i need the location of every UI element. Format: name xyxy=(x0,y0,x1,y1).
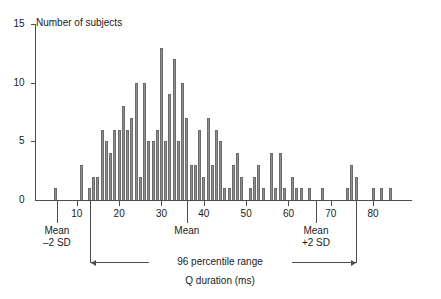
histogram-bar xyxy=(308,188,311,200)
histogram-bar xyxy=(54,188,57,200)
histogram-bar xyxy=(130,118,133,200)
x-tick-20 xyxy=(119,201,120,206)
histogram-bar xyxy=(262,188,265,200)
histogram-bar xyxy=(215,130,218,200)
y-tick-5 xyxy=(31,141,35,142)
histogram-bar xyxy=(321,188,324,200)
percentile-range-label: 96 percentile range xyxy=(150,256,290,268)
y-tick-label-15: 15 xyxy=(7,19,25,29)
y-tick-label-5: 5 xyxy=(7,136,25,146)
histogram-bar xyxy=(118,130,121,200)
mean-plus-2sd-tick xyxy=(316,201,317,223)
x-tick-10 xyxy=(77,201,78,206)
histogram-bar xyxy=(168,94,171,200)
mean-minus-2sd-label-line2: –2 SD xyxy=(17,237,97,249)
x-axis-title: Q duration (ms) xyxy=(140,275,300,287)
histogram-bar xyxy=(109,153,112,200)
histogram-bar xyxy=(92,177,95,200)
histogram-bar xyxy=(80,165,83,200)
x-tick-80 xyxy=(373,201,374,206)
x-tick-40 xyxy=(204,201,205,206)
percentile-range-left-connector xyxy=(90,201,91,263)
mean-plus-2sd-label-line2: +2 SD xyxy=(276,237,356,249)
x-tick-label-60: 60 xyxy=(273,208,303,220)
x-tick-label-20: 20 xyxy=(104,208,134,220)
histogram-bar xyxy=(207,118,210,200)
histogram-bar xyxy=(295,188,298,200)
histogram-bar xyxy=(283,188,286,200)
histogram-bar xyxy=(101,130,104,200)
x-tick-50 xyxy=(246,201,247,206)
y-tick-label-0: 0 xyxy=(7,195,25,205)
histogram-bar xyxy=(164,141,167,200)
x-tick-60 xyxy=(288,201,289,206)
histogram-bar xyxy=(249,188,252,200)
histogram-bar xyxy=(190,165,193,200)
histogram-bar xyxy=(185,118,188,200)
x-tick-70 xyxy=(331,201,332,206)
histogram-bar xyxy=(152,141,155,200)
mean-plus-2sd-label-line1: Mean xyxy=(276,225,356,237)
histogram-bar xyxy=(96,177,99,200)
histogram-bar xyxy=(113,130,116,200)
histogram-bar xyxy=(350,165,353,200)
histogram-bar xyxy=(300,188,303,200)
mean-minus-2sd-label: Mean –2 SD xyxy=(17,225,97,248)
histogram-bar xyxy=(257,165,260,200)
histogram-bar xyxy=(372,188,375,200)
y-axis-line xyxy=(35,24,36,200)
histogram-bar xyxy=(198,130,201,200)
histogram-bar xyxy=(177,141,180,200)
histogram-bar xyxy=(156,130,159,200)
histogram-bar xyxy=(274,188,277,200)
x-tick-label-50: 50 xyxy=(231,208,261,220)
histogram-bar xyxy=(223,188,226,200)
histogram-bar xyxy=(88,188,91,200)
histogram-bar xyxy=(240,177,243,200)
histogram-bar xyxy=(202,177,205,200)
x-tick-label-80: 80 xyxy=(358,208,388,220)
histogram-bar xyxy=(147,141,150,200)
y-tick-10 xyxy=(31,83,35,84)
histogram-bar xyxy=(139,177,142,200)
histogram-bar xyxy=(346,188,349,200)
histogram-bar xyxy=(270,153,273,200)
mean-plus-2sd-label: Mean +2 SD xyxy=(276,225,356,248)
mean-label-line1: Mean xyxy=(147,225,227,237)
histogram-bar xyxy=(389,188,392,200)
mean-label: Mean xyxy=(147,225,227,237)
histogram-figure: Number of subjects 151050 10203040506070… xyxy=(0,0,441,299)
percentile-range-arrowhead-left xyxy=(91,260,96,266)
percentile-range-arrow-right xyxy=(292,262,356,263)
x-tick-label-10: 10 xyxy=(62,208,92,220)
x-tick-label-40: 40 xyxy=(189,208,219,220)
histogram-bar xyxy=(279,153,282,200)
y-axis-title: Number of subjects xyxy=(36,17,122,28)
histogram-bar xyxy=(194,165,197,200)
histogram-bar xyxy=(211,165,214,200)
histogram-bar xyxy=(253,177,256,200)
x-tick-30 xyxy=(161,201,162,206)
histogram-bar xyxy=(236,153,239,200)
histogram-bar xyxy=(135,83,138,200)
histogram-bar xyxy=(380,188,383,200)
histogram-bar xyxy=(219,141,222,200)
mean-minus-2sd-label-line1: Mean xyxy=(17,225,97,237)
histogram-bar xyxy=(232,165,235,200)
histogram-bar xyxy=(105,141,108,200)
percentile-range-right-connector xyxy=(356,201,357,263)
x-tick-label-30: 30 xyxy=(146,208,176,220)
x-tick-label-70: 70 xyxy=(316,208,346,220)
histogram-bar xyxy=(355,177,358,200)
mean-minus-2sd-tick xyxy=(57,201,58,223)
histogram-bar xyxy=(291,177,294,200)
histogram-bar xyxy=(228,188,231,200)
histogram-bar xyxy=(173,59,176,200)
percentile-range-arrow-left xyxy=(91,262,149,263)
histogram-bar xyxy=(122,106,125,200)
y-tick-label-10: 10 xyxy=(7,78,25,88)
histogram-bar xyxy=(143,83,146,200)
histogram-bar xyxy=(126,130,129,200)
histogram-bar xyxy=(160,48,163,200)
histogram-bar xyxy=(181,83,184,200)
